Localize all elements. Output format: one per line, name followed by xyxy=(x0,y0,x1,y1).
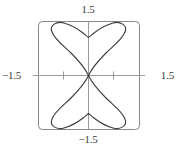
axis-label-top: 1.5 xyxy=(0,3,176,15)
plot-canvas xyxy=(0,0,176,154)
axis-label-bottom: −1.5 xyxy=(0,133,176,145)
axis-label-right: 1.5 xyxy=(161,69,174,81)
axis-label-left: −1.5 xyxy=(2,69,21,81)
polar-graph-figure: 1.5 −1.5 −1.5 1.5 xyxy=(0,0,176,154)
